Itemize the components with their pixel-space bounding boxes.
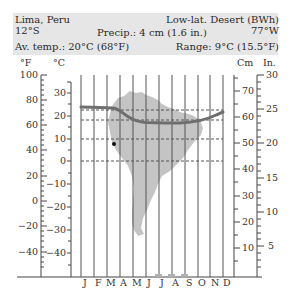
climate-chart <box>0 0 294 305</box>
station-location-dot <box>112 142 116 146</box>
f-axis-ticks <box>41 75 47 267</box>
month-label: O <box>198 278 206 288</box>
month-label: A <box>120 278 127 288</box>
in-axis-ticks <box>257 75 264 267</box>
month-label: S <box>186 278 193 288</box>
month-label: J <box>160 278 164 288</box>
month-label: J <box>83 278 87 288</box>
month-label: J <box>147 278 151 288</box>
month-label: N <box>211 278 219 288</box>
month-label: D <box>223 278 231 288</box>
month-label: M <box>106 278 116 288</box>
month-label: F <box>95 278 102 288</box>
month-label: M <box>132 278 142 288</box>
month-label: A <box>172 278 179 288</box>
cm-axis-ticks <box>234 78 240 261</box>
c-axis-ticks <box>67 82 71 265</box>
